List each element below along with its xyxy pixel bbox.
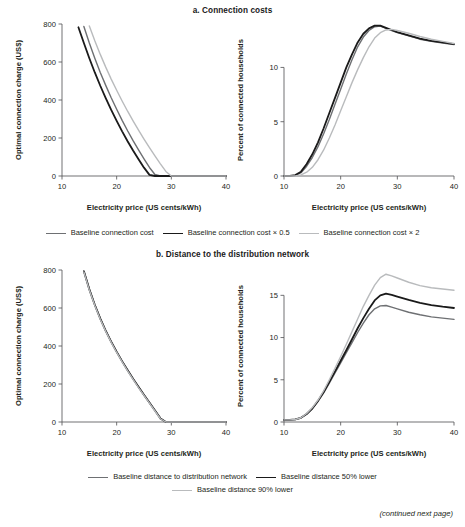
- y-tick-label: 600: [43, 304, 56, 313]
- legend-swatch-line-icon: [256, 477, 276, 478]
- y-tick-label: 400: [43, 342, 56, 351]
- y-axis-title: Percent of connected households: [236, 39, 245, 161]
- series-line-0: [84, 271, 226, 422]
- series-line-2: [284, 29, 454, 176]
- legend-panel-b: Baseline distance to distribution networ…: [0, 472, 465, 498]
- y-tick-label: 0: [52, 418, 56, 427]
- y-axis-title: Optimal connection charge (US$): [14, 40, 23, 160]
- x-tick-label: 10: [58, 428, 66, 437]
- x-tick-label: 20: [112, 428, 120, 437]
- legend-label: Baseline connection cost × 0.5: [188, 228, 290, 238]
- plot-a-left: 020040060080010203040Electricity price (…: [10, 16, 232, 216]
- legend-label: Baseline connection cost × 2: [324, 228, 420, 238]
- x-axis-title: Electricity price (US cents/kWh): [87, 449, 202, 458]
- legend-swatch-line-icon: [46, 233, 66, 234]
- x-tick-label: 40: [222, 182, 230, 191]
- y-tick-label: 5: [274, 376, 278, 385]
- legend-item: Baseline distance 50% lower: [256, 472, 377, 482]
- y-tick-label: 0: [274, 172, 278, 181]
- x-tick-label: 30: [393, 428, 401, 437]
- legend-row: Baseline connection costBaseline connect…: [0, 228, 465, 238]
- series-line-2: [89, 26, 226, 176]
- series-line-1: [84, 271, 226, 422]
- x-tick-label: 40: [450, 182, 458, 191]
- x-tick-label: 40: [222, 428, 230, 437]
- legend-label: Baseline distance 50% lower: [281, 472, 377, 482]
- legend-swatch-line-icon: [299, 233, 319, 234]
- x-tick-label: 10: [58, 182, 66, 191]
- x-tick-label: 20: [112, 182, 120, 191]
- x-tick-label: 20: [336, 428, 344, 437]
- y-tick-label: 5: [274, 118, 278, 127]
- plot-b-right: 05101510203040Electricity price (US cent…: [232, 262, 460, 462]
- y-tick-label: 400: [43, 96, 56, 105]
- y-axis-title: Percent of connected households: [236, 285, 245, 407]
- legend-item: Baseline distance 90% lower: [172, 485, 293, 495]
- legend-item: Baseline connection cost: [46, 228, 154, 238]
- series-line-1: [284, 294, 454, 420]
- plot-b-left: 020040060080010203040Electricity price (…: [10, 262, 232, 462]
- continued-next-page-note: (continued next page): [380, 509, 453, 518]
- y-tick-label: 0: [274, 418, 278, 427]
- legend-label: Baseline distance to distribution networ…: [113, 472, 247, 482]
- chart-a-left-connection-charge: 020040060080010203040Electricity price (…: [10, 16, 232, 216]
- x-tick-label: 30: [167, 428, 175, 437]
- chart-a-right-percent-connected: 051010203040Electricity price (US cents/…: [232, 16, 460, 216]
- x-axis-title: Electricity price (US cents/kWh): [312, 449, 427, 458]
- x-tick-label: 30: [167, 182, 175, 191]
- figure-root: a. Connection costs 02004006008001020304…: [0, 0, 465, 527]
- legend-swatch-line-icon: [88, 477, 108, 478]
- legend-item: Baseline connection cost × 0.5: [163, 228, 290, 238]
- series-line-0: [84, 26, 226, 176]
- y-tick-label: 800: [43, 266, 56, 275]
- x-axis-title: Electricity price (US cents/kWh): [312, 203, 427, 212]
- x-tick-label: 40: [450, 428, 458, 437]
- series-line-2: [84, 272, 226, 422]
- series-line-0: [284, 26, 454, 176]
- chart-b-right-percent-connected: 05101510203040Electricity price (US cent…: [232, 262, 460, 462]
- y-tick-label: 200: [43, 380, 56, 389]
- series-line-1: [78, 27, 226, 176]
- chart-b-left-connection-charge: 020040060080010203040Electricity price (…: [10, 262, 232, 462]
- y-tick-label: 200: [43, 134, 56, 143]
- legend-row: Baseline distance to distribution networ…: [0, 472, 465, 482]
- x-tick-label: 30: [393, 182, 401, 191]
- x-tick-label: 10: [280, 182, 288, 191]
- y-tick-label: 10: [270, 63, 278, 72]
- legend-row: Baseline distance 90% lower: [0, 485, 465, 495]
- x-tick-label: 20: [336, 182, 344, 191]
- x-tick-label: 10: [280, 428, 288, 437]
- legend-item: Baseline distance to distribution networ…: [88, 472, 247, 482]
- y-tick-label: 15: [270, 291, 278, 300]
- legend-label: Baseline distance 90% lower: [197, 485, 293, 495]
- legend-panel-a: Baseline connection costBaseline connect…: [0, 228, 465, 241]
- y-tick-label: 0: [52, 172, 56, 181]
- legend-swatch-line-icon: [172, 490, 192, 491]
- y-axis-title: Optimal connection charge (US$): [14, 286, 23, 406]
- panel-b-title: b. Distance to the distribution network: [0, 250, 465, 259]
- series-line-0: [284, 305, 454, 419]
- legend-label: Baseline connection cost: [71, 228, 154, 238]
- legend-swatch-line-icon: [163, 233, 183, 234]
- legend-item: Baseline connection cost × 2: [299, 228, 420, 238]
- y-tick-label: 10: [270, 333, 278, 342]
- y-tick-label: 600: [43, 58, 56, 67]
- series-line-2: [284, 274, 454, 420]
- y-tick-label: 800: [43, 20, 56, 29]
- panel-a-title: a. Connection costs: [0, 6, 465, 15]
- x-axis-title: Electricity price (US cents/kWh): [87, 203, 202, 212]
- plot-a-right: 051010203040Electricity price (US cents/…: [232, 16, 460, 216]
